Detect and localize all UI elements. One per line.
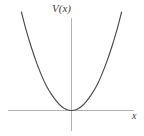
y-axis-label: V(x)	[52, 3, 71, 14]
figure-container: V(x) x	[0, 0, 144, 136]
plot-canvas	[0, 0, 144, 136]
x-axis-label: x	[132, 111, 136, 121]
